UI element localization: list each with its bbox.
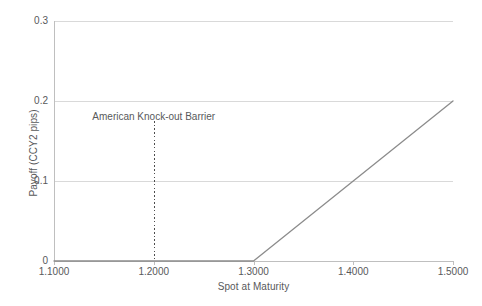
plot-area bbox=[0, 0, 482, 306]
payoff-chart: Payoff (CCY2 pips) 00.10.20.31.10001.200… bbox=[0, 0, 482, 306]
x-axis-title: Spot at Maturity bbox=[54, 281, 453, 292]
gridlines bbox=[54, 22, 453, 262]
x-axis-title-label: Spot at Maturity bbox=[218, 281, 290, 292]
